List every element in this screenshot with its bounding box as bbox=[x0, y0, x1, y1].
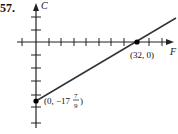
diagram-canvas: 57. F C bbox=[0, 0, 178, 134]
point-y-intercept bbox=[33, 98, 38, 103]
y-axis-label: C bbox=[41, 0, 48, 11]
svg-text:(0, −17: (0, −17 bbox=[44, 96, 71, 106]
x-axis-label: F bbox=[169, 46, 177, 57]
x-axis-arrow-icon bbox=[166, 39, 174, 45]
problem-number: 57. bbox=[0, 1, 15, 15]
svg-text:9: 9 bbox=[74, 102, 78, 110]
svg-text:7: 7 bbox=[74, 92, 78, 100]
linear-function-line bbox=[36, 18, 176, 101]
y-intercept-label: (0, −17 7 9 ) bbox=[44, 92, 83, 110]
y-axis-arrow-icon bbox=[33, 3, 39, 11]
svg-text:): ) bbox=[80, 96, 83, 106]
point-x-intercept bbox=[134, 39, 139, 44]
y-axis: C bbox=[31, 0, 48, 128]
x-intercept-label: (32, 0) bbox=[130, 50, 154, 60]
